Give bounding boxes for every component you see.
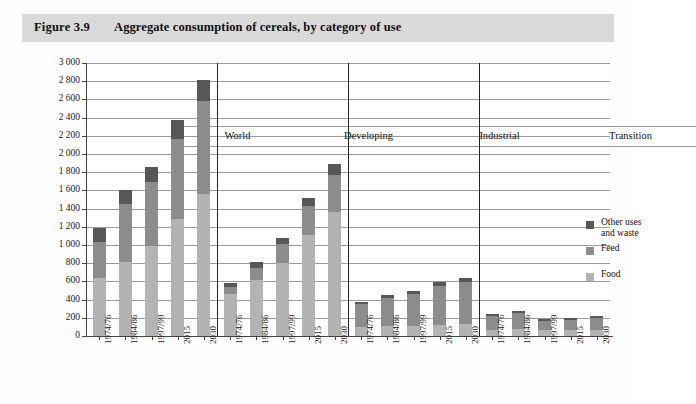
y-tick-label: 3 000 (36, 57, 80, 67)
figure-number: Figure 3.9 (34, 20, 90, 35)
bar-segment-other-uses (250, 262, 263, 267)
x-tick-mark (99, 336, 100, 340)
x-tick-mark (204, 336, 205, 340)
group-label-industrial: Industrial (434, 130, 565, 141)
x-tick-mark (571, 336, 572, 340)
legend-label: Feed (601, 243, 619, 254)
y-tick-label: 2 400 (36, 112, 80, 122)
bar-segment-other-uses (590, 316, 603, 318)
x-tick-label: 1984/86 (522, 314, 532, 344)
group-label-world: World (172, 130, 303, 141)
x-tick-mark (125, 336, 126, 340)
bar-world-2015 (171, 120, 184, 336)
y-tick-label: 600 (36, 275, 80, 285)
bar-segment-other-uses (433, 282, 446, 286)
plot-canvas: WorldDevelopingIndustrialTransition Othe… (86, 63, 610, 336)
figure-title: Aggregate consumption of cereals, by cat… (114, 20, 401, 35)
y-tick-label: 1 800 (36, 166, 80, 176)
bar-segment-other-uses (276, 238, 289, 244)
x-tick-label: 2030 (470, 326, 480, 344)
legend-label: Food (601, 269, 621, 280)
y-tick-label: 800 (36, 257, 80, 267)
bar-segment-feed (171, 139, 184, 219)
x-tick-label: 1997/99 (549, 314, 559, 344)
x-tick-mark (361, 336, 362, 340)
bar-segment-other-uses (355, 302, 368, 304)
group-separator (217, 63, 218, 336)
bar-segment-other-uses (197, 80, 210, 101)
bar-segment-food (302, 235, 315, 336)
bar-segment-food (171, 219, 184, 336)
bar-developing-2015 (302, 198, 315, 336)
x-tick-mark (178, 336, 179, 340)
y-tick-label: 2 600 (36, 93, 80, 103)
x-tick-mark (230, 336, 231, 340)
x-tick-label: 1997/99 (418, 314, 428, 344)
bar-segment-other-uses (381, 295, 394, 298)
group-separator (479, 63, 480, 336)
bar-segment-feed (302, 206, 315, 235)
bar-developing-2030 (328, 164, 341, 336)
x-tick-label: 1974/76 (365, 314, 375, 344)
y-tick-label: 2 000 (36, 148, 80, 158)
x-tick-label: 2015 (313, 326, 323, 344)
x-tick-label: 1974/76 (234, 314, 244, 344)
x-tick-label: 2015 (444, 326, 454, 344)
y-tick-label: 0 (36, 330, 80, 340)
x-tick-label: 1997/99 (287, 314, 297, 344)
bar-segment-feed (276, 244, 289, 263)
bar-segment-other-uses (171, 120, 184, 138)
bar-segment-feed (250, 268, 263, 280)
x-tick-mark (414, 336, 415, 340)
y-tick-label: 200 (36, 312, 80, 322)
bar-segment-feed (328, 175, 341, 212)
x-tick-mark (466, 336, 467, 340)
x-tick-label: 2030 (601, 326, 611, 344)
x-tick-mark (492, 336, 493, 340)
group-header-strip: WorldDevelopingIndustrialTransition (172, 126, 696, 147)
bar-segment-feed (197, 101, 210, 194)
bar-segment-feed (93, 242, 106, 278)
legend-swatch-icon (586, 247, 594, 255)
x-tick-label: 2030 (339, 326, 349, 344)
bar-segment-feed (224, 287, 237, 294)
legend-label: Other usesand waste (601, 217, 641, 239)
x-tick-label: 2015 (575, 326, 585, 344)
bar-world-1997-99 (145, 167, 158, 336)
bar-segment-other-uses (459, 278, 472, 283)
bar-segment-other-uses (93, 228, 106, 242)
group-header-top-rule (172, 126, 696, 127)
y-tick-label: 2 200 (36, 130, 80, 140)
bar-segment-other-uses (328, 164, 341, 175)
y-tick-label: 2 800 (36, 75, 80, 85)
group-label-developing: Developing (303, 130, 434, 141)
x-tick-mark (597, 336, 598, 340)
bar-segment-feed (433, 286, 446, 324)
x-tick-label: 1984/86 (391, 314, 401, 344)
bar-segment-other-uses (145, 167, 158, 182)
x-tick-label: 1974/76 (496, 314, 506, 344)
x-tick-label: 1984/86 (260, 314, 270, 344)
y-tick-label: 1 200 (36, 221, 80, 231)
x-tick-label: 1974/76 (103, 314, 113, 344)
bar-segment-feed (119, 204, 132, 262)
bar-segment-other-uses (119, 190, 132, 204)
x-tick-label: 2030 (208, 326, 218, 344)
bar-segment-feed (459, 282, 472, 323)
x-tick-mark (335, 336, 336, 340)
bar-segment-other-uses (512, 311, 525, 313)
x-tick-mark (256, 336, 257, 340)
y-tick-label: 1 600 (36, 184, 80, 194)
bar-segment-other-uses (224, 283, 237, 287)
bar-segment-food (328, 212, 341, 336)
bar-segment-other-uses (407, 291, 420, 294)
x-tick-mark (152, 336, 153, 340)
x-tick-mark (309, 336, 310, 340)
bar-segment-other-uses (302, 198, 315, 207)
y-tick-label: 1 000 (36, 239, 80, 249)
group-header-bottom-rule (172, 146, 696, 147)
x-tick-mark (440, 336, 441, 340)
bar-segment-other-uses (564, 318, 577, 320)
y-tick-label: 400 (36, 294, 80, 304)
y-axis-line (86, 63, 87, 337)
